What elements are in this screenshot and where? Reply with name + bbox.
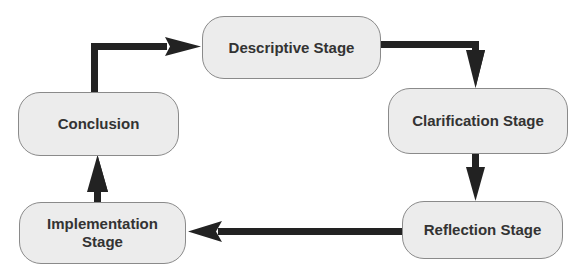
node-label: Descriptive Stage [229, 39, 355, 57]
node-implementation-stage: Implementation Stage [19, 202, 186, 264]
node-label: Reflection Stage [424, 221, 542, 239]
node-label-line1: Implementation [47, 215, 158, 233]
arrow-descriptive-to-clarification [380, 41, 485, 88]
arrow-clarification-to-reflection [466, 153, 485, 201]
arrow-reflection-to-implementation [188, 221, 403, 242]
node-label-line2: Stage [82, 233, 123, 251]
node-descriptive-stage: Descriptive Stage [202, 16, 381, 79]
stage-cycle-diagram: Descriptive Stage Clarification Stage Re… [0, 0, 581, 278]
node-clarification-stage: Clarification Stage [388, 88, 568, 154]
node-label: Conclusion [58, 115, 140, 133]
node-reflection-stage: Reflection Stage [402, 201, 563, 259]
arrow-implementation-to-conclusion [87, 155, 108, 203]
node-conclusion: Conclusion [18, 92, 179, 156]
node-label: Clarification Stage [412, 112, 544, 130]
arrow-conclusion-to-descriptive [91, 37, 201, 93]
